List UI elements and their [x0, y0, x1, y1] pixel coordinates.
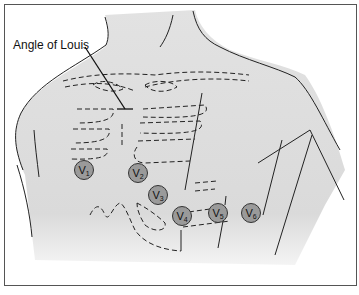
electrode-v1: V1 [74, 160, 94, 180]
electrode-v4: V4 [172, 206, 192, 226]
electrode-v5: V5 [208, 203, 228, 223]
angle-of-louis-label: Angle of Louis [13, 38, 89, 52]
electrode-v3: V3 [148, 185, 168, 205]
diagram-frame: Angle of Louis V1 V2 V3 V4 V5 V6 [4, 4, 357, 286]
electrode-v2: V2 [128, 163, 148, 183]
electrode-v6: V6 [241, 203, 261, 223]
